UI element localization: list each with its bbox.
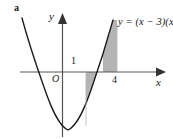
origin-label: O xyxy=(52,74,59,84)
x-tick-label-1: 1 xyxy=(71,56,76,66)
figure-container: a y x O 1 4 y = (x − 3)(x xyxy=(0,0,173,139)
x-axis-label: x xyxy=(156,77,161,88)
y-axis-arrow-icon xyxy=(58,13,67,24)
part-label: a xyxy=(14,3,19,13)
x-tick-label-4: 4 xyxy=(112,75,117,85)
parabola-curve xyxy=(22,18,113,130)
shaded-region-below-axis xyxy=(22,18,113,130)
y-axis-label: y xyxy=(49,11,54,22)
curve-equation-label: y = (x − 3)(x xyxy=(118,17,173,28)
